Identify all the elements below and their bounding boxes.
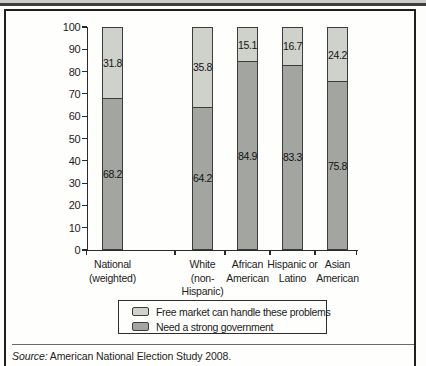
- chart-legend: Free market can handle these problems Ne…: [118, 300, 327, 334]
- legend-swatch-strong-government: [132, 322, 149, 331]
- figure-page: 010203040506070809010031.868.2National (…: [0, 0, 426, 366]
- source-divider-rule: [12, 344, 414, 345]
- legend-item-free-market: Free market can handle these problems: [132, 305, 326, 318]
- legend-label-free-market: Free market can handle these problems: [156, 306, 331, 318]
- legend-item-strong-government: Need a strong government: [132, 320, 326, 333]
- source-text: American National Election Study 2008.: [48, 350, 231, 362]
- legend-label-strong-government: Need a strong government: [156, 321, 273, 333]
- legend-swatch-free-market: [132, 307, 149, 316]
- source-line: Source: American National Election Study…: [12, 350, 412, 362]
- top-accent-strip-dark: [0, 3, 426, 6]
- source-prefix: Source:: [12, 350, 48, 362]
